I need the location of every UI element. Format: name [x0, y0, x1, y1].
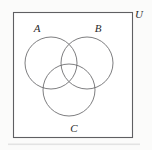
set-label-b: B: [95, 22, 102, 34]
set-label-c: C: [70, 122, 78, 134]
universe-rectangle: [14, 13, 133, 138]
venn-diagram-figure: A B C U: [0, 0, 152, 150]
set-label-a: A: [33, 22, 41, 34]
scan-artifact-band: [8, 144, 140, 146]
venn-diagram-canvas: A B C U: [0, 0, 152, 150]
universe-label: U: [135, 8, 144, 20]
